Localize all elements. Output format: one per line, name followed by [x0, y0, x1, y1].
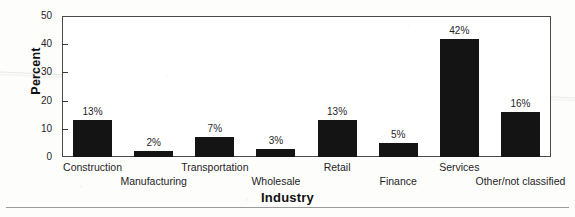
y-axis-tick-label: 20 — [30, 96, 52, 106]
x-axis-category-label: Services — [399, 162, 519, 173]
x-axis-category-label: Transportation — [155, 162, 275, 173]
bar — [501, 112, 540, 157]
x-axis-category-label: Construction — [33, 162, 153, 173]
bar — [379, 143, 418, 157]
bar — [256, 149, 295, 157]
x-axis-category-label: Retail — [277, 162, 397, 173]
bar-value-label: 16% — [496, 99, 544, 109]
bar — [134, 151, 173, 157]
bar-value-label: 5% — [374, 130, 422, 140]
bar-value-label: 2% — [130, 138, 178, 148]
y-axis-tick-mark — [62, 129, 68, 130]
x-axis-category-label: Manufacturing — [94, 176, 214, 187]
footer-divider-rule — [6, 207, 569, 208]
x-axis-title: Industry — [0, 190, 575, 205]
y-axis-tick-label: 10 — [30, 124, 52, 134]
bar-value-label: 13% — [313, 107, 361, 117]
y-axis-tick-mark — [62, 101, 68, 102]
bar — [440, 39, 479, 157]
x-axis-category-label: Wholesale — [216, 176, 336, 187]
bar — [195, 137, 234, 157]
bar-value-label: 7% — [191, 124, 239, 134]
bar-value-label: 13% — [69, 107, 117, 117]
y-axis-tick-label: 30 — [30, 67, 52, 77]
bar-value-label: 42% — [435, 26, 483, 36]
bar-value-label: 3% — [252, 136, 300, 146]
y-axis-tick-label: 50 — [30, 11, 52, 21]
y-axis-tick-mark — [62, 44, 68, 45]
y-axis-tick-label: 0 — [30, 152, 52, 162]
x-axis-category-label: Other/not classified — [460, 176, 575, 187]
bar — [73, 120, 112, 157]
x-axis-category-label: Finance — [338, 176, 458, 187]
y-axis-tick-mark — [62, 72, 68, 73]
bar — [318, 120, 357, 157]
y-axis-tick-label: 40 — [30, 39, 52, 49]
